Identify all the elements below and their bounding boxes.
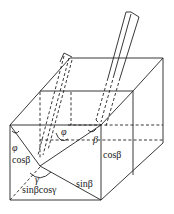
label-sin-beta-cos-gamma: sinβcosγ [22,184,57,195]
label-sin-beta: sinβ [76,178,93,189]
label-beta: β [92,134,98,145]
left-beam [38,53,72,158]
label-phi-upper: φ [61,126,67,137]
label-phi-left: φ [12,142,18,153]
diagram-canvas: φ φ cosβ β cosβ γ sinβ sinβcosγ [0,0,174,214]
label-cos-beta-left: cosβ [12,154,30,165]
label-cos-beta-right: cosβ [103,149,121,160]
geometry-figure: φ φ cosβ β cosβ γ sinβ sinβcosγ [0,0,174,214]
